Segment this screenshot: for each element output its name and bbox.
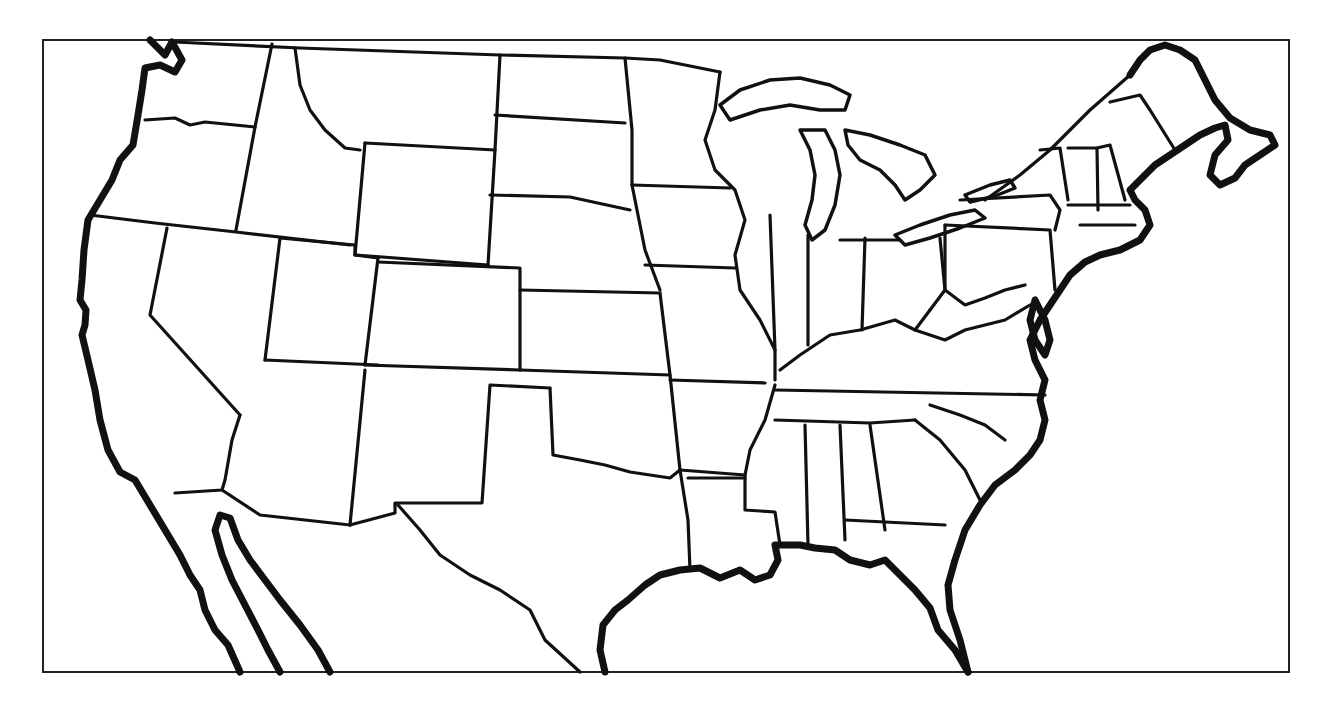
atlantic-coastline — [948, 45, 1275, 672]
lake-huron — [845, 130, 935, 200]
gulf-coastline — [600, 545, 968, 672]
pacific-coastline — [80, 40, 240, 672]
lake-superior — [720, 78, 850, 120]
state-borders — [90, 42, 1175, 672]
map-canvas — [0, 0, 1324, 714]
us-outline-map — [0, 0, 1324, 714]
lake-michigan — [800, 130, 840, 240]
